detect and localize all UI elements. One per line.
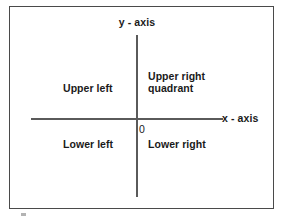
quadrant-label-lower-right: Lower right xyxy=(148,139,206,151)
quadrant-label-lower-left: Lower left xyxy=(63,139,113,151)
quadrant-label-upper-left: Upper left xyxy=(63,83,113,95)
diagram-frame: y - axis x - axis Upper left Upper right… xyxy=(9,6,274,209)
x-axis-label: x - axis xyxy=(222,113,258,125)
x-axis-line xyxy=(31,118,223,120)
scan-artifact xyxy=(21,213,26,216)
quadrant-label-upper-right: Upper right quadrant xyxy=(148,71,205,95)
y-axis-line xyxy=(136,35,138,197)
y-axis-label: y - axis xyxy=(103,17,171,29)
origin-label: 0 xyxy=(139,124,145,136)
